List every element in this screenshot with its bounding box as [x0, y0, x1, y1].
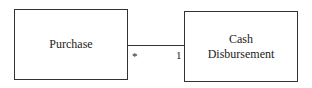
label-line-1: Cash [208, 32, 275, 47]
association-line [128, 45, 184, 46]
label-line-2: Disbursement [208, 47, 275, 62]
entity-purchase: Purchase [14, 9, 128, 80]
entity-cash-disbursement: Cash Disbursement [184, 11, 298, 82]
multiplicity-cash-disbursement: 1 [176, 50, 182, 61]
entity-purchase-label: Purchase [49, 37, 92, 52]
entity-cash-disbursement-label: Cash Disbursement [208, 32, 275, 62]
multiplicity-purchase: * [132, 51, 138, 62]
